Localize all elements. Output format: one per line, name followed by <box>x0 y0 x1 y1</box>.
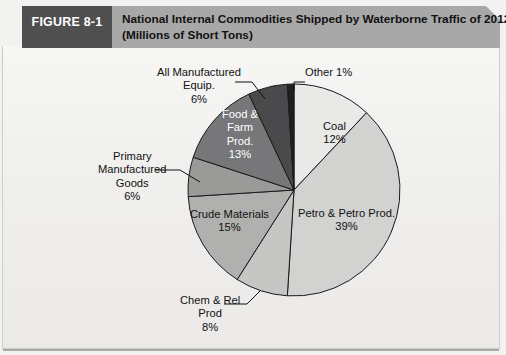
figure-number-tag: FIGURE 8-1 <box>22 6 112 48</box>
pie-slice-label-line: 15% <box>190 221 269 234</box>
pie-slice-label: Coal12% <box>323 120 346 147</box>
figure-container: FIGURE 8-1 National Internal Commodities… <box>0 0 506 355</box>
pie-slice-label-line: Prod <box>180 307 240 320</box>
figure-title-line-1: National Internal Commodities Shipped by… <box>122 12 492 28</box>
pie-slice-label-line: Chem & Rel <box>180 294 240 307</box>
pie-slice-label-line: Farm <box>222 121 258 134</box>
pie-slice-label-line: Crude Materials <box>190 208 269 221</box>
pie-chart <box>2 46 500 349</box>
figure-title-line-2: (Millions of Short Tons) <box>122 28 492 44</box>
pie-slice-label-line: 12% <box>323 133 346 146</box>
pie-slice-label: Petro & Petro Prod.39% <box>298 207 395 234</box>
pie-slice-label-line: Prod. <box>222 135 258 148</box>
pie-slice-label-line: 13% <box>222 148 258 161</box>
pie-slice-label-line: Food & <box>222 108 258 121</box>
figure-number-label: FIGURE 8-1 <box>32 15 103 29</box>
pie-slice-label: Crude Materials15% <box>190 208 269 235</box>
pie-slice-label-line: Coal <box>323 120 346 133</box>
pie-slice-label-line: Petro & Petro Prod. <box>298 207 395 220</box>
pie-slice-label: All ManufacturedEquip.6% <box>157 66 241 106</box>
pie-slice-label-line: Other 1% <box>305 66 352 79</box>
chart-area: Coal12%Petro & Petro Prod.39%Chem & RelP… <box>2 46 500 349</box>
pie-slice-label-line: Equip. <box>157 79 241 92</box>
pie-slice-label-line: 6% <box>98 190 166 203</box>
pie-slice-label: PrimaryManufacturedGoods6% <box>98 150 166 204</box>
pie-slice-label: Other 1% <box>305 66 352 79</box>
pie-slice-label-line: 8% <box>180 321 240 334</box>
pie-slice-label-line: All Manufactured <box>157 66 241 79</box>
pie-slice-label-line: Manufactured <box>98 163 166 176</box>
pie-slice-label-line: Primary <box>98 150 166 163</box>
pie-slice-label-line: Goods <box>98 177 166 190</box>
pie-slice-label-line: 6% <box>157 93 241 106</box>
pie-slice-group <box>188 84 400 296</box>
pie-slice-label-line: 39% <box>298 220 395 233</box>
pie-slice-label: Chem & RelProd8% <box>180 294 240 334</box>
figure-title: National Internal Commodities Shipped by… <box>122 6 492 48</box>
pie-slice-label: Food &FarmProd.13% <box>222 108 258 162</box>
